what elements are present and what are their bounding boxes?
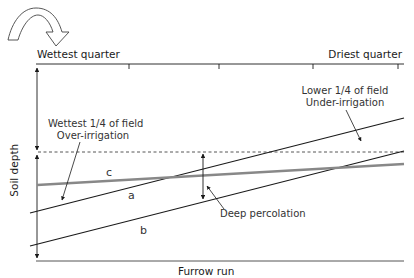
furrow-run-label: Furrow run: [178, 266, 234, 277]
line-c-label: c: [106, 167, 112, 178]
wettest-annotation-line1: Wettest 1/4 of field: [48, 119, 138, 129]
line-a-label: a: [128, 190, 135, 201]
deep-percolation-label: Deep percolation: [220, 209, 306, 219]
curved-flow-arrow-icon: [8, 8, 69, 46]
top-axis: [36, 64, 404, 69]
wettest-pointer-arrow: [62, 142, 80, 200]
lower-annotation-line2: Under-irrigation: [300, 98, 390, 108]
line-c: [37, 164, 404, 185]
lower-annotation-line1: Lower 1/4 of field: [300, 86, 390, 96]
line-b-label: b: [140, 225, 147, 236]
lower-annotation: Lower 1/4 of field Under-irrigation: [300, 86, 390, 108]
soil-depth-label: Soil depth: [9, 144, 20, 197]
wettest-annotation-line2: Over-irrigation: [48, 131, 138, 141]
wettest-annotation: Wettest 1/4 of field Over-irrigation: [48, 119, 138, 141]
wettest-quarter-label: Wettest quarter: [37, 49, 120, 60]
driest-quarter-label: Driest quarter: [328, 49, 402, 60]
lower-pointer-arrow: [346, 110, 361, 141]
